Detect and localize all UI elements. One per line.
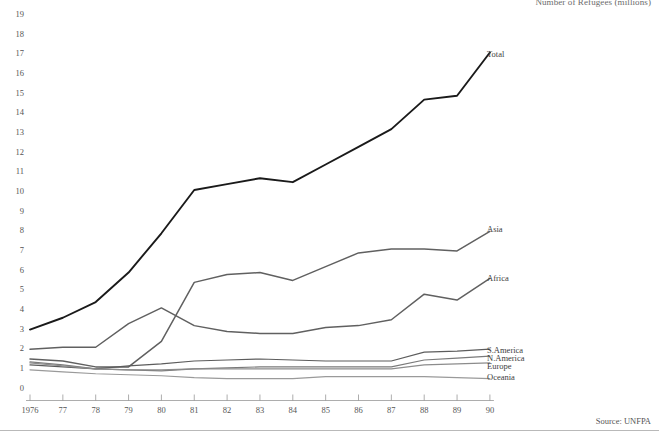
y-axis-tick-label: 16 — [2, 68, 24, 78]
y-axis-tick-label: 6 — [2, 265, 24, 275]
series-label-oceania: Oceania — [487, 372, 515, 382]
y-axis-tick-label: 19 — [2, 9, 24, 19]
series-line-oceania — [30, 370, 490, 379]
y-axis-tick-label: 0 — [2, 383, 24, 393]
x-axis-tick-label: 90 — [470, 405, 510, 415]
series-line-total — [30, 52, 490, 329]
y-axis-tick-label: 1 — [2, 363, 24, 373]
refugees-line-chart: Number of Refugees (millions) 0123456789… — [0, 0, 659, 437]
footer-divider — [0, 430, 659, 431]
y-axis-tick-label: 13 — [2, 127, 24, 137]
y-axis-tick-label: 5 — [2, 284, 24, 294]
y-axis-tick-label: 18 — [2, 29, 24, 39]
y-axis-tick-label: 10 — [2, 186, 24, 196]
y-axis-tick-label: 17 — [2, 48, 24, 58]
series-label-europe: Europe — [487, 361, 512, 371]
source-note: Source: UNFPA — [596, 416, 651, 426]
y-axis-tick-label: 9 — [2, 206, 24, 216]
y-axis-tick-label: 14 — [2, 107, 24, 117]
plot-canvas — [0, 0, 659, 437]
y-axis-tick-label: 3 — [2, 324, 24, 334]
series-label-africa: Africa — [487, 273, 509, 283]
y-axis-tick-label: 2 — [2, 343, 24, 353]
y-axis-tick-label: 15 — [2, 88, 24, 98]
y-axis-tick-label: 11 — [2, 166, 24, 176]
y-axis-tick-label: 7 — [2, 245, 24, 255]
series-line-africa — [30, 278, 490, 349]
y-axis-tick-label: 8 — [2, 225, 24, 235]
y-axis-tick-label: 12 — [2, 147, 24, 157]
y-axis-tick-label: 4 — [2, 304, 24, 314]
series-label-total: Total — [487, 49, 504, 59]
series-label-asia: Asia — [487, 224, 503, 234]
